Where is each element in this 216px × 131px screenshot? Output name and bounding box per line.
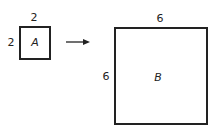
square-b-left-label: 6 <box>101 71 111 82</box>
square-b-name: B <box>151 72 165 83</box>
square-b-top-label: 6 <box>155 13 165 24</box>
